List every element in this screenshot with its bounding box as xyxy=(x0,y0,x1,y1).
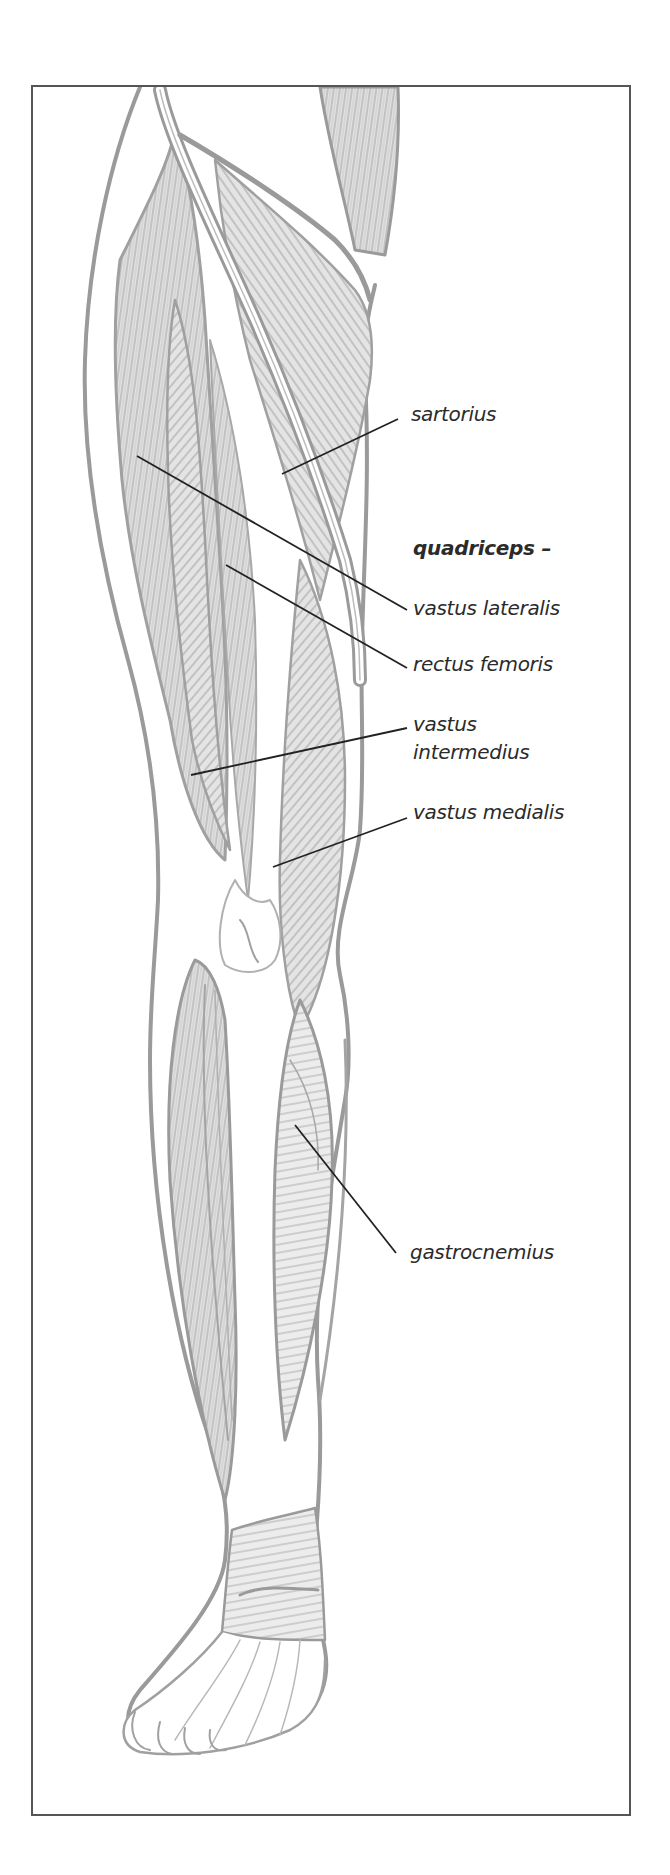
label-sartorius: sartorius xyxy=(411,402,496,426)
label-vastus-lateralis: vastus lateralis xyxy=(413,596,560,620)
label-quadriceps-heading: quadriceps – xyxy=(413,536,551,560)
label-vastus-medialis: vastus medialis xyxy=(413,800,564,824)
leg-muscle-illustration xyxy=(0,0,670,1875)
label-gastrocnemius: gastrocnemius xyxy=(410,1240,554,1264)
label-rectus-femoris: rectus femoris xyxy=(413,652,553,676)
label-vastus-intermedius-line1: vastus xyxy=(413,712,477,736)
label-vastus-intermedius-line2: intermedius xyxy=(413,740,529,764)
